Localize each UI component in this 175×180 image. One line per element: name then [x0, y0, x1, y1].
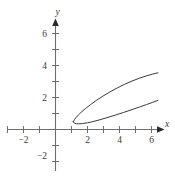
y-axis-label: y	[54, 7, 60, 17]
x-tick-label-neg2: −2	[18, 135, 28, 145]
x-axis-arrow-icon	[157, 126, 165, 133]
x-tick-label-2: 2	[85, 135, 90, 145]
curve-upper-branch	[73, 73, 158, 122]
y-tick-label-neg2: −2	[37, 151, 47, 161]
x-axis-label: x	[164, 119, 170, 129]
curve-lower-branch	[73, 100, 158, 123]
y-tick-label-6: 6	[42, 29, 47, 39]
y-axis-arrow-icon	[52, 19, 59, 27]
coordinate-plot: −2 2 4 6 6 4 2 −2 x y	[0, 0, 175, 180]
y-tick-label-4: 4	[42, 61, 47, 71]
x-tick-label-6: 6	[149, 135, 154, 145]
y-tick-label-2: 2	[42, 93, 47, 103]
graph-figure: −2 2 4 6 6 4 2 −2 x y	[0, 0, 175, 180]
x-tick-label-4: 4	[117, 135, 122, 145]
